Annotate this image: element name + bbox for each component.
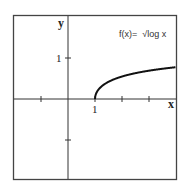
- y-axis-label: y: [58, 16, 64, 30]
- x-tick-label-1: 1: [92, 103, 98, 115]
- function-label: f(x)= √log x: [119, 29, 167, 39]
- graph-canvas: y x 1 1 f(x)= √log x: [0, 0, 185, 190]
- x-axis-label: x: [168, 97, 174, 111]
- function-curve: [95, 67, 175, 99]
- y-tick-label-1: 1: [56, 52, 62, 64]
